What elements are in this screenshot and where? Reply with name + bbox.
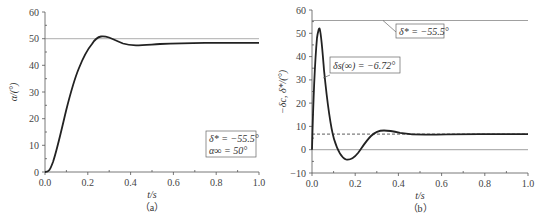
x-tick-label: 0.8 — [210, 177, 223, 188]
y-axis-label-a: α/(°) — [8, 82, 20, 101]
x-tick-label: 0.2 — [349, 178, 362, 189]
panel-b: 60 50 40 30 20 10 0 −10 0.0 0.2 0.4 0.6 … — [277, 5, 534, 215]
x-tick-label: 0.0 — [39, 177, 52, 188]
x-ticks-b — [312, 171, 528, 176]
y-tick-label: 30 — [29, 87, 39, 98]
x-ticks-a — [45, 170, 259, 175]
x-axis-label-b: t/s — [415, 190, 425, 201]
x-tick-label: 0.6 — [435, 178, 448, 189]
panel-caption-a: （a） — [140, 202, 164, 213]
x-tick-label: 0.2 — [82, 177, 95, 188]
annotation-delta-s-inf-text: δs(∞) = −6.72° — [333, 60, 395, 72]
x-tick-label: 1.0 — [522, 178, 535, 189]
legend-box-a: δ* = −55.5° α∞ = 50° — [206, 131, 259, 157]
panel-a: 60 50 40 30 20 10 0 0.0 0.2 0.4 0.6 0.8 … — [8, 7, 265, 214]
annotation-delta-star-text: δ* = −55.5° — [399, 26, 449, 37]
x-axis-label-a: t/s — [147, 189, 157, 200]
x-tick-label: 0.4 — [124, 177, 137, 188]
annotation-delta-s-inf: δs(∞) = −6.72° — [323, 57, 400, 78]
y-tick-labels-a: 60 50 40 30 20 10 0 — [29, 7, 39, 178]
y-tick-label: 60 — [296, 5, 306, 16]
y-ticks-a — [42, 12, 47, 172]
y-tick-label: 20 — [29, 113, 39, 124]
x-tick-labels-a: 0.0 0.2 0.4 0.6 0.8 1.0 — [39, 177, 266, 188]
y-tick-label: 30 — [296, 74, 306, 85]
delta-c-curve — [312, 28, 528, 159]
y-tick-label: 10 — [29, 140, 39, 151]
y-axis-label-b: −δc, δ*/(°) — [277, 69, 289, 114]
figure: 60 50 40 30 20 10 0 0.0 0.2 0.4 0.6 0.8 … — [0, 0, 539, 221]
y-tick-label: 0 — [301, 144, 306, 155]
y-tick-label: 60 — [29, 7, 39, 18]
x-tick-label: 0.4 — [392, 178, 405, 189]
x-tick-label: 1.0 — [253, 177, 266, 188]
x-tick-label: 0.8 — [479, 178, 492, 189]
x-tick-label: 0.6 — [167, 177, 180, 188]
legend-delta-star: δ* = −55.5° — [209, 133, 259, 144]
y-tick-labels-b: 60 50 40 30 20 10 0 −10 — [290, 5, 306, 179]
x-tick-labels-b: 0.0 0.2 0.4 0.6 0.8 1.0 — [306, 178, 535, 189]
y-tick-label: 40 — [296, 51, 306, 62]
y-tick-label: −10 — [290, 168, 306, 179]
panel-caption-b: （b） — [408, 203, 433, 214]
annotation-delta-star: δ* = −55.5° — [383, 21, 449, 39]
y-tick-label: 50 — [29, 33, 39, 44]
y-tick-label: 40 — [29, 60, 39, 71]
y-tick-label: 10 — [296, 121, 306, 132]
y-tick-label: 50 — [296, 28, 306, 39]
x-tick-label: 0.0 — [306, 178, 319, 189]
legend-alpha-inf: α∞ = 50° — [209, 145, 247, 156]
y-tick-label: 0 — [34, 167, 39, 178]
y-tick-label: 20 — [296, 98, 306, 109]
